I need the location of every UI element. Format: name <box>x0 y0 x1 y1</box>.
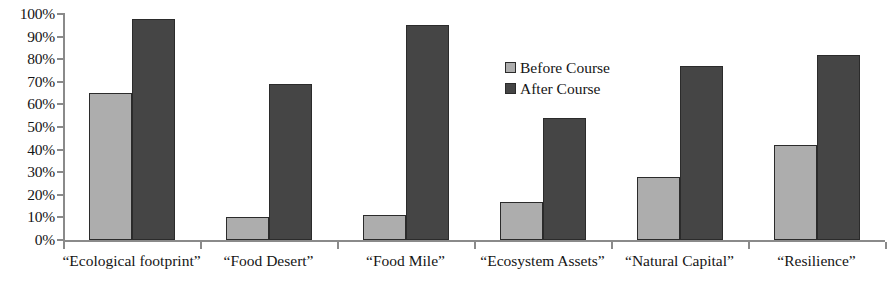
bar <box>269 84 312 240</box>
bar <box>637 177 680 240</box>
x-axis-separator-tick <box>63 242 65 249</box>
bar <box>543 118 586 240</box>
plot-area <box>0 0 888 291</box>
legend-item-before-course[interactable]: Before Course <box>505 57 610 78</box>
y-tick-mark <box>57 239 64 241</box>
bar <box>500 202 543 240</box>
x-axis-separator-tick <box>474 242 476 249</box>
bar <box>817 55 860 240</box>
bar <box>89 93 132 240</box>
y-tick-mark <box>57 194 64 196</box>
bar <box>406 25 449 240</box>
bar <box>226 217 269 240</box>
chart-legend: Before Course After Course <box>505 57 610 99</box>
legend-swatch-after-icon <box>505 83 516 94</box>
x-axis-category-label: “Resilience” <box>707 252 888 270</box>
x-axis-separator-tick <box>611 242 613 249</box>
y-tick-mark <box>57 126 64 128</box>
x-axis-separator-tick <box>337 242 339 249</box>
x-axis-separator-tick <box>200 242 202 249</box>
y-tick-mark <box>57 171 64 173</box>
bar <box>363 215 406 240</box>
legend-label-after: After Course <box>520 81 601 97</box>
bar <box>680 66 723 240</box>
y-tick-mark <box>57 103 64 105</box>
bar-chart: 100%90%80%70%60%50%40%30%20%10%0% “Ecolo… <box>0 0 888 291</box>
legend-label-before: Before Course <box>520 60 610 76</box>
x-axis-separator-tick <box>885 242 887 249</box>
bar <box>132 19 175 240</box>
bar <box>774 145 817 240</box>
y-tick-mark <box>57 36 64 38</box>
x-axis-separator-tick <box>748 242 750 249</box>
legend-swatch-before-icon <box>505 62 516 73</box>
y-tick-mark <box>57 149 64 151</box>
legend-item-after-course[interactable]: After Course <box>505 78 610 99</box>
y-tick-mark <box>57 216 64 218</box>
y-tick-mark <box>57 13 64 15</box>
y-tick-mark <box>57 58 64 60</box>
y-tick-mark <box>57 81 64 83</box>
